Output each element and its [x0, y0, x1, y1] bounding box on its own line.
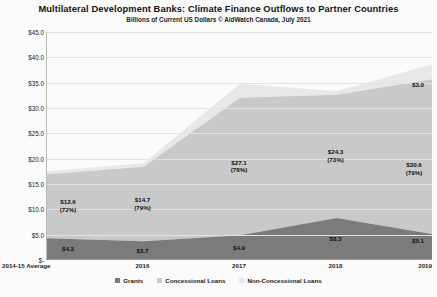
legend-item[interactable]: Grants: [115, 277, 143, 284]
x-axis-tick-label: 2014-15 Average: [2, 262, 50, 269]
legend: GrantsConcessional LoansNon-Concessional…: [0, 277, 437, 284]
title-block: Multilateral Development Banks: Climate …: [0, 4, 437, 23]
legend-item-label: Non-Concessional Loans: [247, 277, 321, 284]
stacked-area-series: [47, 32, 432, 259]
legend-item-label: Grants: [123, 277, 143, 284]
y-axis-tick-label: $5.0: [2, 231, 44, 238]
x-axis-tick-label: 2016: [136, 262, 150, 269]
data-label-share: (79%): [134, 204, 151, 212]
label-grants-2014-15: $4.3: [62, 245, 74, 253]
data-label-value: $4.9: [233, 244, 245, 252]
label-concessional-2018: $24.3(73%): [327, 149, 344, 165]
x-axis: 2014-15 Average2016201720182019: [46, 262, 432, 274]
y-axis-tick-label: $25.0: [2, 130, 44, 137]
label-concessional-2014-15: $12.6(72%): [60, 199, 77, 215]
chart-subtitle: Billions of Current US Dollars © AidWatc…: [0, 16, 437, 23]
legend-swatch-icon: [239, 278, 244, 283]
label-concessional-2016: $14.7(79%): [134, 196, 151, 212]
data-label-value: $4.3: [62, 245, 74, 253]
chart-page: Multilateral Development Banks: Climate …: [0, 0, 437, 297]
legend-item[interactable]: Concessional Loans: [157, 277, 225, 284]
gridline: [47, 108, 432, 109]
plot-frame: [46, 32, 432, 260]
gridline: [47, 184, 432, 185]
gridline: [47, 209, 432, 210]
y-axis-tick-label: $30.0: [2, 105, 44, 112]
data-label-value: $12.6: [60, 199, 77, 207]
data-label-value: $8.3: [329, 235, 341, 243]
data-label-value: $24.3: [327, 149, 344, 157]
y-axis-tick-label: $45.0: [2, 29, 44, 36]
data-label-share: (73%): [327, 156, 344, 164]
x-axis-tick-label: 2018: [329, 262, 343, 269]
legend-item[interactable]: Non-Concessional Loans: [239, 277, 321, 284]
label-concessional-2019: $30.6(79%): [406, 162, 423, 178]
label-grants-2016: $3.7: [136, 247, 148, 255]
y-axis-tick-label: $15.0: [2, 181, 44, 188]
data-label-value: $30.6: [406, 162, 423, 170]
gridline: [47, 57, 432, 58]
data-label-share: (79%): [406, 169, 423, 177]
y-axis-tick-label: $40.0: [2, 54, 44, 61]
label-grants-2019: $5.1: [412, 237, 424, 245]
y-axis-tick-label: $35.0: [2, 79, 44, 86]
data-label-value: $3.7: [136, 247, 148, 255]
legend-item-label: Concessional Loans: [165, 277, 225, 284]
y-axis-tick-label: $20.0: [2, 155, 44, 162]
label-grants-2018: $8.3: [329, 235, 341, 243]
data-label-share: (72%): [60, 206, 77, 214]
data-label-share: (78%): [231, 167, 248, 175]
data-label-value: $27.1: [231, 159, 248, 167]
plot-area: [47, 32, 432, 259]
y-axis: $-$5.0$10.0$15.0$20.0$25.0$30.0$35.0$40.…: [0, 32, 44, 260]
gridline: [47, 32, 432, 33]
x-axis-tick-label: 2019: [418, 262, 432, 269]
label-non-concessional-2019: $3.0: [412, 81, 424, 89]
data-label-value: $3.0: [412, 81, 424, 89]
y-axis-tick-label: $10.0: [2, 206, 44, 213]
page-title: Multilateral Development Banks: Climate …: [0, 4, 437, 14]
legend-swatch-icon: [115, 278, 120, 283]
gridline: [47, 235, 432, 236]
gridline: [47, 83, 432, 84]
label-concessional-2017: $27.1(78%): [231, 159, 248, 175]
data-label-value: $5.1: [412, 237, 424, 245]
data-label-value: $14.7: [134, 196, 151, 204]
gridline: [47, 133, 432, 134]
label-grants-2017: $4.9: [233, 244, 245, 252]
legend-swatch-icon: [157, 278, 162, 283]
x-axis-tick-label: 2017: [232, 262, 246, 269]
